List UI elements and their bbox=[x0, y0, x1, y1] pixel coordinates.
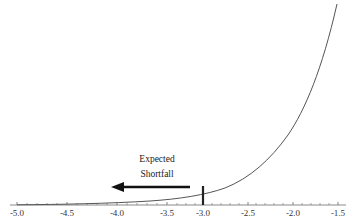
annotation-label-line2: Shortfall bbox=[140, 169, 174, 179]
x-tick-label: -5.0 bbox=[10, 208, 25, 218]
tail-density-curve bbox=[17, 4, 337, 205]
x-tick-label: -2.0 bbox=[286, 208, 301, 218]
annotation-label-line1: Expected bbox=[139, 154, 175, 164]
x-tick-label: -4.5 bbox=[60, 208, 75, 218]
x-tick-label: -1.5 bbox=[331, 208, 346, 218]
expected-shortfall-chart: -5.0 -4.5 -4.0 -3.5 -3.0 -2.5 -2.0 -1.5 … bbox=[0, 0, 350, 222]
x-tick-label: -2.5 bbox=[241, 208, 256, 218]
x-tick-label: -3.0 bbox=[196, 208, 211, 218]
x-tick-label: -3.5 bbox=[160, 208, 175, 218]
x-tick-label: -4.0 bbox=[110, 208, 125, 218]
arrow-left-icon bbox=[111, 182, 124, 192]
